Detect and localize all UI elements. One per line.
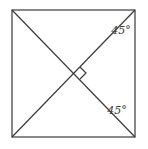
right-angle-marker <box>80 67 86 79</box>
angle-label-top: 45° <box>110 24 131 37</box>
angle-label-bottom: 45° <box>106 104 127 117</box>
square-diagonals-diagram: 45° 45° <box>0 0 148 149</box>
